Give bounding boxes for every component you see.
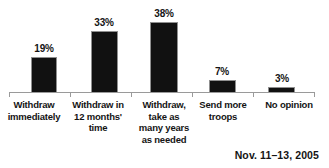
category-label-line: take as <box>132 111 196 123</box>
category-label-withdraw-immediately: Withdraw immediately <box>2 99 66 122</box>
category-label-no-opinion: No opinion <box>256 99 322 111</box>
category-axis-labels: Withdraw immediately Withdraw in 12 mont… <box>0 99 329 151</box>
category-label-withdraw-12-months: Withdraw in 12 months' time <box>66 99 130 134</box>
value-label-withdraw-12-months: 33% <box>84 17 124 28</box>
category-label-line: time <box>66 122 130 134</box>
axis-tick-2 <box>131 93 132 97</box>
bar-withdraw-immediately <box>31 57 57 93</box>
axis-tick-3 <box>192 93 193 97</box>
category-label-send-more-troops: Send more troops <box>194 99 252 122</box>
value-label-no-opinion: 3% <box>262 73 302 84</box>
bar-chart: 19% 33% 38% 7% 3% Withdraw immediately W… <box>0 0 329 168</box>
category-label-line: Withdraw <box>2 99 66 111</box>
axis-tick-start <box>9 93 10 97</box>
x-axis-line <box>9 92 315 93</box>
value-label-withdraw-many-years: 38% <box>144 8 184 19</box>
category-label-withdraw-many-years: Withdraw, take as many years as needed <box>132 99 196 145</box>
category-label-line: Send more <box>194 99 252 111</box>
category-label-line: Withdraw, <box>132 99 196 111</box>
date-caption: Nov. 11–13, 2005 <box>235 149 319 161</box>
category-label-line: 12 months' <box>66 111 130 123</box>
axis-tick-4 <box>253 93 254 97</box>
category-label-line: many years <box>132 122 196 134</box>
category-label-line: No opinion <box>256 99 322 111</box>
axis-tick-1 <box>70 93 71 97</box>
bar-withdraw-12-months <box>91 31 118 93</box>
value-label-withdraw-immediately: 19% <box>24 43 64 54</box>
category-label-line: troops <box>194 111 252 123</box>
axis-tick-end <box>314 93 315 97</box>
plot-area: 19% 33% 38% 7% 3% <box>0 0 329 94</box>
category-label-line: as needed <box>132 134 196 146</box>
value-label-send-more-troops: 7% <box>202 66 242 77</box>
bar-withdraw-many-years <box>150 22 178 93</box>
category-label-line: Withdraw in <box>66 99 130 111</box>
category-label-line: immediately <box>2 111 66 123</box>
